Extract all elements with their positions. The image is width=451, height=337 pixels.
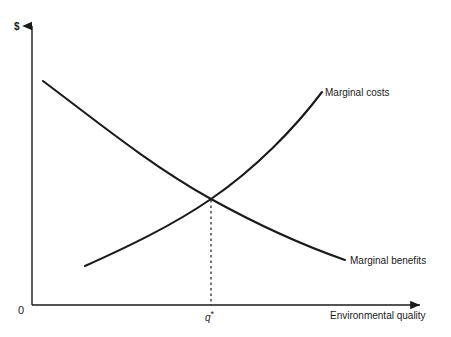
origin-label: 0 bbox=[18, 305, 24, 316]
chart-canvas bbox=[0, 0, 451, 337]
economics-chart-figure: $ 0 Environmental quality Marginal costs… bbox=[0, 0, 451, 337]
marginal-costs-label: Marginal costs bbox=[325, 88, 389, 98]
q-star-tick-label: q* bbox=[205, 313, 214, 323]
marginal-costs-curve bbox=[85, 92, 322, 266]
y-axis-label: $ bbox=[14, 22, 20, 32]
marginal-benefits-label: Marginal benefits bbox=[350, 256, 426, 266]
q-star-asterisk: * bbox=[211, 309, 215, 319]
marginal-benefits-curve bbox=[43, 81, 345, 260]
x-axis-label: Environmental quality bbox=[330, 311, 426, 321]
